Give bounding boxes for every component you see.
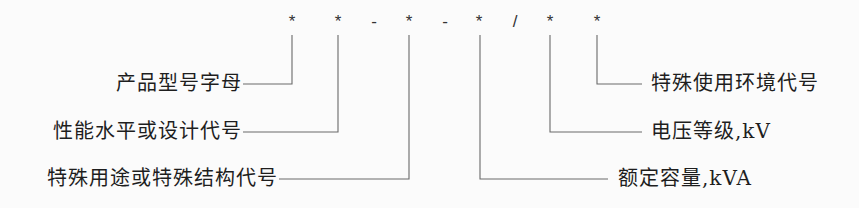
label-special-structure: 特殊用途或特殊结构代号 xyxy=(47,166,278,190)
connector-special-structure xyxy=(279,35,409,179)
label-rated-capacity: 额定容量,kVA xyxy=(618,166,752,190)
label-design-code: 性能水平或设计代号 xyxy=(53,119,242,143)
label-voltage-class: 电压等级,kV xyxy=(651,119,771,143)
connector-special-environment xyxy=(597,35,642,84)
model-designation-diagram: * * - * - * / * * 产品型号字母 性能水平或设计代号 特殊用途或… xyxy=(0,0,859,208)
connector-rated-capacity xyxy=(480,35,608,179)
label-special-environment: 特殊使用环境代号 xyxy=(651,71,819,95)
connector-product-letter xyxy=(243,35,292,84)
label-product-letter: 产品型号字母 xyxy=(116,71,242,95)
